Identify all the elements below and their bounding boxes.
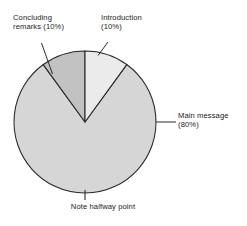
label-concluding-remarks: Concluding remarks (10%) bbox=[13, 13, 91, 32]
label-introduction: Introduction (10%) bbox=[101, 13, 161, 32]
pie-chart-figure: Concluding remarks (10%) Introduction (1… bbox=[0, 0, 247, 226]
label-halfway-point: Note halfway point bbox=[43, 202, 163, 211]
label-main-message: Main message (80%) bbox=[178, 111, 244, 130]
